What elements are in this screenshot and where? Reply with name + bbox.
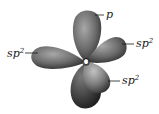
label-sp2-lower-base: sp	[122, 74, 135, 87]
label-p: p	[106, 8, 113, 21]
label-sp2-left-sup: 2	[19, 47, 25, 55]
orbital-diagram: O p sp2 sp2 sp2	[0, 0, 159, 114]
label-sp2-right-base: sp	[136, 37, 149, 50]
label-sp2-right-sup: 2	[148, 37, 154, 45]
label-sp2-left: sp2	[7, 47, 25, 60]
label-sp2-left-base: sp	[7, 47, 20, 60]
label-sp2-lower-sup: 2	[134, 74, 140, 82]
label-sp2-lower-right: sp2	[122, 74, 140, 87]
center-atom-label: O	[82, 57, 89, 67]
label-sp2-upper-right: sp2	[136, 37, 154, 50]
